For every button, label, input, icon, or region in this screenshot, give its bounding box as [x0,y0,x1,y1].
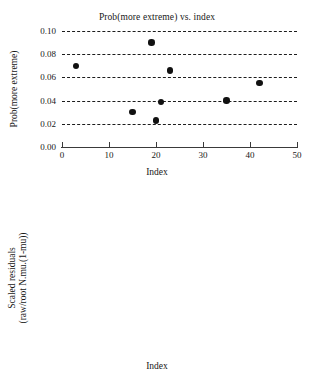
y-tick-label: 0.06 [24,72,56,82]
chart-title-top: Prob(more extreme) vs. index [0,12,314,22]
x-tick [297,142,298,147]
gridline [62,31,297,32]
x-tick [156,142,157,147]
data-point [223,97,229,103]
x-tick-label: 10 [105,150,114,160]
x-axis-line [61,147,298,148]
y-axis-label-top: Prob(more extreme) [9,51,19,128]
data-point [256,80,262,86]
y-axis-label-bottom-line1: Scaled residuals [6,232,17,323]
x-tick-label: 20 [152,150,161,160]
x-tick [203,142,204,147]
y-tick-label: 0.02 [24,119,56,129]
x-tick-label: 50 [293,150,302,160]
x-tick-label: 0 [60,150,65,160]
data-point [148,39,154,45]
x-axis-label-bottom: Index [0,361,314,371]
plot-area-top: 0.000.020.040.060.080.1001020304050 [62,31,297,147]
y-tick-label: 0.00 [24,142,56,152]
x-tick [250,142,251,147]
gridline [62,101,297,102]
data-point [153,117,159,123]
gridline [62,77,297,78]
gridline [62,54,297,55]
data-point [129,109,135,115]
chart-panel-prob-more-extreme: Prob(more extreme) vs. index 0.000.020.0… [0,0,314,191]
gridline [62,124,297,125]
y-axis-label-bottom: Scaled residuals (raw/root N.mu.(1-mu)) [6,232,28,323]
y-axis-label-bottom-line2: (raw/root N.mu.(1-mu)) [17,232,28,323]
y-tick-label: 0.04 [24,96,56,106]
figure-container: Prob(more extreme) vs. index 0.000.020.0… [0,0,314,382]
chart-panel-scaled-residuals: Scaled residuals vs. index −3−2−10123010… [0,191,314,382]
y-tick-label: 0.10 [24,26,56,36]
x-axis-label-top: Index [0,167,314,177]
x-tick-label: 30 [199,150,208,160]
data-point [158,99,164,105]
x-tick [109,142,110,147]
data-point [73,63,79,69]
x-tick-label: 40 [246,150,255,160]
y-tick-label: 0.08 [24,49,56,59]
data-point [167,67,173,73]
x-tick [62,142,63,147]
